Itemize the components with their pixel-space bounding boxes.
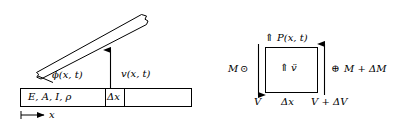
left-moment-symbol-icon: ⊙ (240, 64, 248, 74)
element-width-label: Δx (281, 97, 294, 107)
distributed-load-arrow-icon: ⇑ (265, 33, 273, 43)
beam-rotation-label: ϕ(x, t) (52, 70, 83, 80)
x-axis (21, 111, 44, 119)
right-moment-symbol-icon: ⊕ (331, 64, 339, 74)
bar-cell-delta-x-label: Δx (107, 92, 120, 102)
distributed-load-label: P(x, t) (277, 33, 308, 43)
right-moment-label: M + ΔM (344, 64, 386, 74)
x-axis-label: x (49, 110, 55, 120)
bar-cell-properties-label: E, A, I, ρ (28, 92, 71, 102)
left-shear-label: V (254, 97, 261, 107)
deflection-label: v(x, t) (121, 69, 150, 79)
double-up-arrow-icon-inner: ⇑ (280, 62, 288, 73)
figure-vector-layer (0, 0, 401, 127)
beam-element-figure: ϕ(x, t) v(x, t) E, A, I, ρ Δx x ⇑ P(x, t… (0, 0, 401, 127)
circle-plus-icon: ⊕ (331, 63, 339, 74)
inertia-arrow-icon: ⇑ (280, 63, 288, 73)
inertia-label: v̈ (291, 63, 297, 73)
circle-dot-icon: ⊙ (240, 63, 248, 74)
right-shear-label: V + ΔV (311, 97, 347, 107)
left-moment-label: M (228, 64, 238, 74)
double-up-arrow-icon: ⇑ (265, 32, 273, 43)
